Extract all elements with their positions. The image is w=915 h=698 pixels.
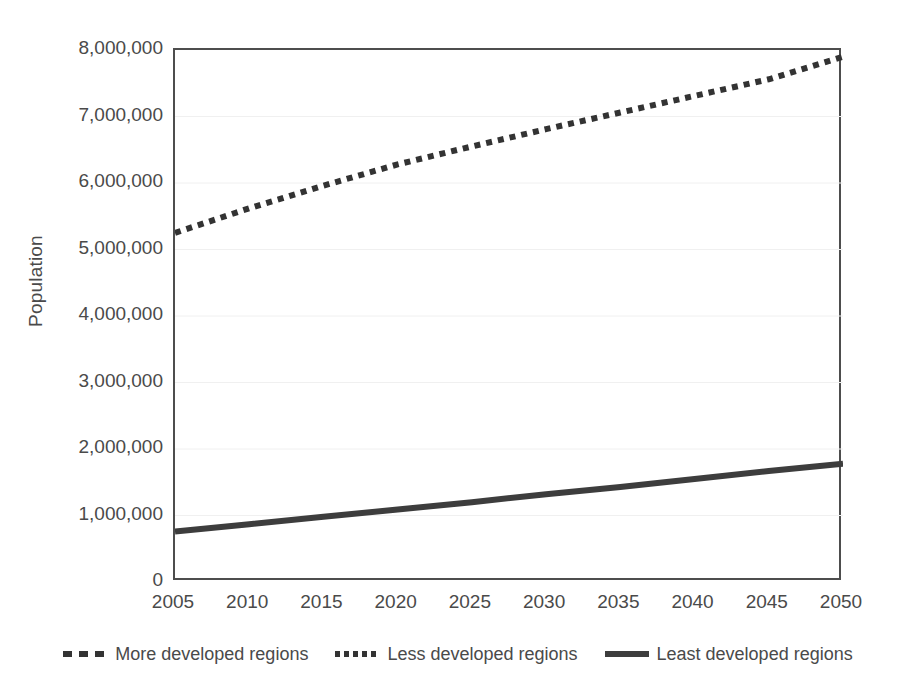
legend-swatch-dashed-icon: [62, 648, 108, 660]
series-lines: [175, 57, 843, 532]
y-tick-label: 5,000,000: [3, 238, 163, 257]
y-tick-label: 0: [3, 570, 163, 589]
plot-area: [173, 48, 841, 580]
legend-swatch-dotted-icon: [334, 648, 380, 660]
y-tick-label: 7,000,000: [3, 105, 163, 124]
legend-swatch-solid-icon: [604, 648, 650, 660]
legend-label: Less developed regions: [387, 645, 577, 663]
y-tick-label: 2,000,000: [3, 437, 163, 456]
y-tick-label: 6,000,000: [3, 171, 163, 190]
y-tick-label: 8,000,000: [3, 38, 163, 57]
legend-label: Least developed regions: [657, 645, 853, 663]
gridlines: [175, 117, 843, 516]
legend-item[interactable]: Less developed regions: [334, 645, 577, 663]
legend-item[interactable]: More developed regions: [62, 645, 308, 663]
population-line-chart: Population 8,000,0007,000,0006,000,0005,…: [0, 0, 915, 698]
plot-svg: [175, 50, 843, 582]
y-tick-label: 4,000,000: [3, 304, 163, 323]
series-line: [175, 57, 843, 233]
chart-legend: More developed regionsLess developed reg…: [0, 645, 915, 663]
y-tick-label: 3,000,000: [3, 371, 163, 390]
series-line: [175, 464, 843, 532]
x-tick-label: 2050: [796, 592, 886, 611]
y-tick-label: 1,000,000: [3, 504, 163, 523]
legend-item[interactable]: Least developed regions: [604, 645, 853, 663]
x-axis-tick-labels: 2005201020152020202520302035204020452050: [0, 592, 915, 622]
legend-label: More developed regions: [115, 645, 308, 663]
